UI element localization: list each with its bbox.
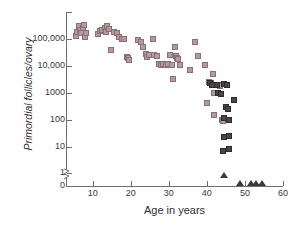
y-tick-mark [67, 39, 72, 40]
data-point-square [140, 44, 146, 50]
data-point-triangle [220, 172, 228, 178]
x-tick-mark [207, 181, 208, 186]
y-tick-label: 100 [50, 115, 65, 124]
x-tick-mark [283, 181, 284, 186]
data-point-square [192, 39, 198, 45]
x-tick-label: 20 [111, 189, 151, 198]
x-tick-label: 30 [149, 189, 189, 198]
y-tick-mark [67, 66, 72, 67]
data-point-square [226, 117, 232, 123]
x-tick-mark [245, 181, 246, 186]
x-tick-label: 60 [263, 189, 293, 198]
x-tick-mark [93, 181, 94, 186]
data-point-square [169, 62, 175, 68]
data-point-square [150, 36, 156, 42]
data-point-square [81, 22, 87, 28]
x-tick-label: 10 [73, 189, 113, 198]
data-point-square [214, 82, 220, 88]
data-point-square [218, 91, 224, 97]
data-point-triangle [258, 180, 266, 186]
data-point-square [177, 62, 183, 68]
data-point-square [154, 53, 160, 59]
y-tick-mark [67, 147, 72, 148]
data-point-square [211, 112, 217, 118]
y-tick-label: 100,000 [32, 34, 65, 43]
x-axis-line [66, 186, 283, 187]
data-point-square [224, 82, 230, 88]
y-tick-label: 10,000 [37, 61, 65, 70]
data-point-square [231, 97, 237, 103]
x-tick-label: 40 [187, 189, 227, 198]
plot-area: 100,00010,00010001001010 102030405060 Pr… [0, 0, 293, 227]
x-tick-mark [131, 181, 132, 186]
data-point-triangle [236, 180, 244, 186]
y-tick-mark [67, 120, 72, 121]
primordial-follicle-scatter-chart: 100,00010,00010001001010 102030405060 Pr… [0, 0, 293, 227]
y-axis-title: Primordial follicles/ovary [22, 19, 34, 169]
x-axis-title: Age in years [66, 204, 283, 216]
x-tick-label: 50 [225, 189, 265, 198]
data-point-square [204, 100, 210, 106]
y-tick-label: 1000 [45, 88, 65, 97]
y-tick-label: 1 [60, 168, 65, 177]
y-tick-mark [67, 186, 72, 187]
x-tick-mark [169, 181, 170, 186]
data-point-square [83, 30, 89, 36]
data-point-square [172, 44, 178, 50]
data-point-square [108, 47, 114, 53]
data-point-square [170, 76, 176, 82]
data-point-square [210, 71, 216, 77]
data-point-square [226, 146, 232, 152]
data-point-square [195, 53, 201, 59]
data-point-square [121, 36, 127, 42]
data-point-square [202, 62, 208, 68]
y-tick-mark-top [67, 12, 72, 13]
y-tick-mark [67, 93, 72, 94]
data-point-square [187, 67, 193, 73]
data-point-square [126, 57, 132, 63]
y-tick-label: 0 [60, 181, 65, 190]
data-point-square [226, 133, 232, 139]
y-tick-mark [67, 173, 72, 174]
y-tick-label: 10 [55, 142, 65, 151]
data-point-square [225, 106, 231, 112]
